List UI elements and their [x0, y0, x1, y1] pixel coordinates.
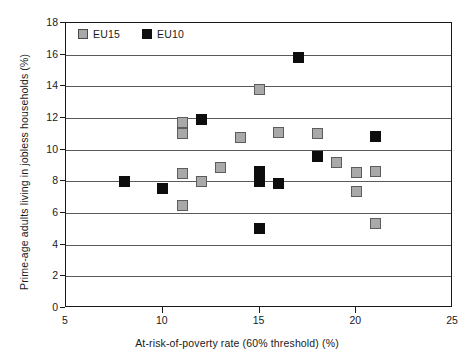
data-point-eu15-1 — [177, 128, 188, 139]
data-point-eu15-5 — [215, 162, 226, 173]
legend-entry-eu10[interactable]: EU10 — [142, 29, 184, 40]
data-point-eu10-9 — [370, 131, 381, 142]
gridline-y-2 — [66, 276, 451, 277]
x-tick-mark-20 — [355, 307, 356, 313]
gridline-y-10 — [66, 150, 451, 151]
data-point-eu15-12 — [351, 186, 362, 197]
scatter-chart: Prime-age adults living in jobless house… — [0, 0, 474, 362]
data-point-eu15-13 — [370, 166, 381, 177]
data-point-eu15-6 — [235, 132, 246, 143]
y-tick-label-0: 0 — [18, 302, 58, 313]
x-tick-label-5: 5 — [45, 315, 85, 326]
x-tick-label-25: 25 — [432, 315, 472, 326]
x-tick-label-15: 15 — [239, 315, 279, 326]
x-tick-label-20: 20 — [335, 315, 375, 326]
gridline-y-16 — [66, 55, 451, 56]
legend-entry-eu15[interactable]: EU15 — [78, 29, 120, 40]
legend: EU15EU10 — [78, 29, 184, 40]
data-point-eu15-8 — [273, 127, 284, 138]
legend-swatch-eu10-icon — [142, 29, 152, 39]
data-point-eu15-11 — [351, 167, 362, 178]
data-point-eu15-0 — [177, 117, 188, 128]
data-point-eu15-10 — [331, 157, 342, 168]
x-tick-mark-10 — [162, 307, 163, 313]
legend-label-eu10: EU10 — [157, 29, 184, 40]
gridline-y-6 — [66, 213, 451, 214]
x-tick-label-10: 10 — [142, 315, 182, 326]
x-axis-title: At-risk-of-poverty rate (60% threshold) … — [0, 337, 474, 349]
data-point-eu10-6 — [273, 178, 284, 189]
y-tick-label-18: 18 — [18, 17, 58, 28]
x-tick-mark-15 — [259, 307, 260, 313]
legend-label-eu15: EU15 — [93, 29, 120, 40]
data-point-eu10-7 — [293, 52, 304, 63]
data-point-eu15-7 — [254, 84, 265, 95]
y-axis-title: Prime-age adults living in jobless house… — [18, 54, 30, 290]
data-point-eu10-0 — [119, 176, 130, 187]
y-tick-mark-0 — [60, 307, 65, 308]
data-point-eu15-2 — [177, 168, 188, 179]
data-point-eu15-4 — [196, 176, 207, 187]
data-point-eu15-14 — [370, 218, 381, 229]
data-point-eu10-8 — [312, 151, 323, 162]
gridline-y-12 — [66, 118, 451, 119]
data-point-eu10-5 — [254, 223, 265, 234]
gridline-y-4 — [66, 245, 451, 246]
data-point-eu10-1 — [157, 183, 168, 194]
data-point-eu10-2 — [196, 114, 207, 125]
data-point-eu10-4 — [254, 176, 265, 187]
plot-area — [65, 22, 452, 307]
data-point-eu15-3 — [177, 200, 188, 211]
data-point-eu15-9 — [312, 128, 323, 139]
legend-swatch-eu15-icon — [78, 29, 88, 39]
